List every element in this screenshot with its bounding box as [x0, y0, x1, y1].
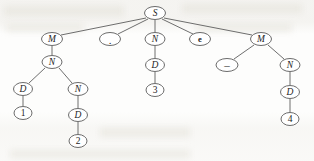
tree-node-e[interactable]: e [190, 33, 211, 46]
tree-node-one[interactable]: 1 [14, 107, 32, 120]
tree-edge-m_right-n_right [268, 45, 284, 59]
node-label-n_right: N [286, 60, 294, 70]
tree-canvas: SM.NeMND–NDN3D1D42 [0, 0, 314, 161]
node-label-d_right: D [286, 87, 294, 97]
node-label-n_mid: N [151, 34, 159, 44]
node-label-four: 4 [288, 114, 293, 124]
node-label-n_lr: N [74, 84, 82, 94]
tree-node-three[interactable]: 3 [146, 84, 164, 97]
tree-edge-n_left-d_ll [29, 68, 45, 83]
node-label-s: S [153, 8, 158, 18]
node-label-d_mid: D [151, 60, 159, 70]
node-label-m_right: M [256, 34, 266, 44]
tree-node-two[interactable]: 2 [69, 135, 87, 148]
node-label-minus: – [223, 59, 230, 71]
node-label-d_lr: D [74, 110, 82, 120]
tree-node-dot[interactable]: . [100, 33, 121, 46]
tree-node-d_right[interactable]: D [281, 86, 300, 99]
tree-node-n_left[interactable]: N [42, 56, 62, 69]
node-label-one: 1 [21, 108, 26, 118]
node-label-m_left: M [47, 34, 57, 44]
parse-tree-figure: SM.NeMND–NDN3D1D42 [0, 0, 314, 161]
tree-edge-s-dot [118, 19, 148, 34]
tree-node-m_left[interactable]: M [42, 33, 63, 46]
node-label-two: 2 [76, 136, 81, 146]
tree-node-s[interactable]: S [145, 7, 166, 20]
tree-edge-s-e [162, 19, 193, 34]
tree-node-n_right[interactable]: N [280, 59, 300, 72]
tree-node-d_mid[interactable]: D [146, 59, 165, 72]
tree-node-n_mid[interactable]: N [145, 33, 165, 46]
node-label-n_left: N [48, 57, 56, 67]
tree-node-d_lr[interactable]: D [69, 109, 88, 122]
tree-edge-n_left-n_lr [59, 68, 72, 83]
tree-node-minus[interactable]: – [216, 59, 238, 72]
tree-node-n_lr[interactable]: N [68, 83, 88, 96]
node-label-dot: . [109, 34, 112, 46]
node-layer: SM.NeMND–NDN3D1D42 [14, 7, 301, 148]
tree-node-four[interactable]: 4 [281, 113, 299, 126]
tree-node-d_ll[interactable]: D [14, 83, 33, 96]
node-label-d_ll: D [19, 84, 27, 94]
tree-edge-m_right-minus [234, 45, 254, 59]
node-label-three: 3 [153, 85, 158, 95]
tree-node-m_right[interactable]: M [251, 33, 272, 46]
node-label-e: e [198, 34, 202, 44]
